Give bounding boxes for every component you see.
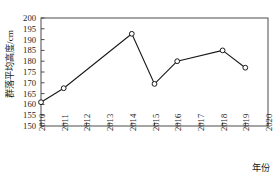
y-axis-ticks bbox=[41, 18, 45, 126]
x-tick-label: 2015 bbox=[152, 114, 161, 131]
plot-canvas bbox=[0, 0, 276, 176]
data-point-2015 bbox=[152, 82, 157, 87]
data-point-2019 bbox=[243, 65, 248, 70]
x-tick-label: 2013 bbox=[106, 114, 115, 131]
data-point-markers bbox=[39, 31, 248, 104]
x-tick-label: 2010 bbox=[38, 114, 47, 131]
x-tick-label: 2019 bbox=[242, 114, 251, 131]
data-point-2018 bbox=[220, 48, 225, 53]
x-tick-label: 2012 bbox=[83, 114, 92, 131]
x-tick-label: 2011 bbox=[61, 114, 70, 131]
data-point-2011 bbox=[61, 86, 66, 91]
data-point-2010 bbox=[39, 100, 44, 105]
line-chart-figure: 群落平均高度/cm 200 195 190 185 180 175 170 16… bbox=[0, 0, 276, 176]
data-point-2016 bbox=[175, 59, 180, 64]
data-line-series bbox=[41, 34, 245, 102]
x-tick-label: 2016 bbox=[174, 114, 183, 131]
x-tick-label: 2018 bbox=[220, 114, 229, 131]
x-axis-title: 年份 bbox=[252, 160, 270, 174]
data-point-2014 bbox=[129, 31, 134, 36]
x-tick-label: 2014 bbox=[129, 114, 138, 131]
x-tick-label: 2020 bbox=[265, 114, 274, 131]
plot-frame bbox=[41, 18, 268, 126]
x-tick-label: 2017 bbox=[197, 114, 206, 131]
